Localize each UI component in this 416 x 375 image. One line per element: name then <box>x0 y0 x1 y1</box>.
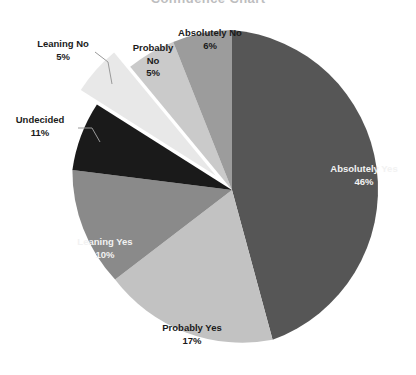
slice-label-name: Absolutely No <box>167 27 253 40</box>
slice-label-name: Leaning Yes <box>56 236 154 249</box>
slice-label-absolutely-yes: Absolutely Yes 46% <box>318 163 410 188</box>
slice-label-value: 11% <box>2 127 78 140</box>
slice-label-value: 5% <box>124 67 182 80</box>
slice-label-value: 17% <box>138 335 246 348</box>
slice-label-name: Leaning No <box>22 38 104 51</box>
slice-label-name: Undecided <box>2 114 78 127</box>
slice-label-name: Absolutely Yes <box>318 163 410 176</box>
slice-label-value: 46% <box>318 176 410 189</box>
slice-label-absolutely-no: Absolutely No 6% <box>167 27 253 52</box>
slice-label-undecided: Undecided 11% <box>2 114 78 139</box>
slice-label-probably-yes: Probably Yes 17% <box>138 322 246 347</box>
slice-label-name: Probably Yes <box>138 322 246 335</box>
slice-label-leaning-no: Leaning No 5% <box>22 38 104 63</box>
slice-label-value: 6% <box>167 40 253 53</box>
slice-label-name-line2: No <box>124 55 182 68</box>
slice-label-leaning-yes: Leaning Yes 10% <box>56 236 154 261</box>
pie-chart-screenshot: Confidence Chart Absolutely Yes 46% Prob… <box>0 0 416 375</box>
slice-label-value: 5% <box>22 51 104 64</box>
slice-label-value: 10% <box>56 249 154 262</box>
